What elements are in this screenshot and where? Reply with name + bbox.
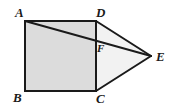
vertex-label-E: E (156, 50, 165, 63)
triangle-face-DCE (96, 21, 151, 91)
vertex-label-A: A (15, 6, 24, 19)
vertex-label-F: F (97, 43, 104, 54)
vertex-label-B: B (13, 91, 22, 104)
vertex-label-D: D (96, 6, 105, 19)
geometry-figure: A D B C E F (0, 0, 172, 111)
vertex-label-C: C (96, 92, 105, 105)
geometry-diagram-canvas (0, 0, 172, 111)
